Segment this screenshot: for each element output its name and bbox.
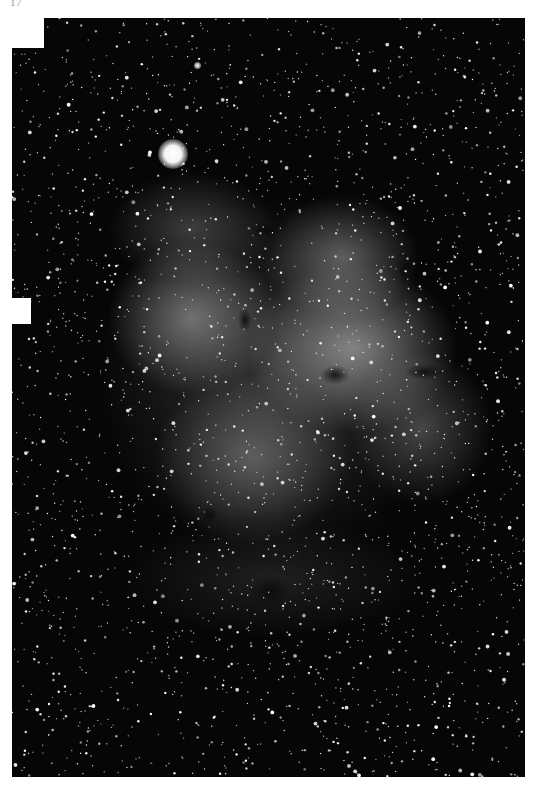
bright-star [158,139,188,169]
corner-notch [12,18,44,48]
page-number: 17 [10,0,22,8]
nebula-photograph [12,18,525,777]
star-field [12,18,525,777]
edge-notch [12,298,31,324]
secondary-star [194,62,201,69]
